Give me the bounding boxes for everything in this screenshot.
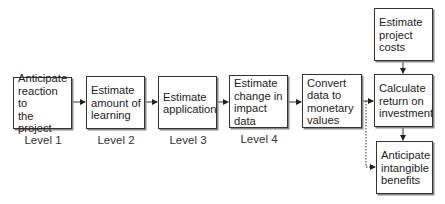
box-anticipate-intangible: Anticipate intangible benefits bbox=[376, 141, 433, 194]
box-label: Estimate amount of learning bbox=[91, 84, 141, 122]
box-label: Anticipate reaction to the project bbox=[18, 72, 68, 135]
box-label: Convert data to monetary values bbox=[307, 77, 354, 127]
box-label: Estimate project costs bbox=[379, 16, 423, 54]
box-anticipate-reaction: Anticipate reaction to the project bbox=[13, 77, 72, 129]
level-4-label: Level 4 bbox=[229, 133, 289, 145]
box-label: Anticipate intangible benefits bbox=[381, 149, 430, 187]
box-estimate-impact: Estimate change in impact data bbox=[229, 75, 288, 128]
box-estimate-costs: Estimate project costs bbox=[374, 8, 433, 61]
box-estimate-application: Estimate application bbox=[158, 76, 217, 129]
box-label: Estimate change in impact data bbox=[234, 77, 284, 127]
level-3-label: Level 3 bbox=[158, 134, 218, 146]
box-calculate-roi: Calculate return on investment bbox=[374, 74, 433, 127]
box-convert-monetary: Convert data to monetary values bbox=[302, 74, 362, 128]
level-2-label: Level 2 bbox=[86, 134, 146, 146]
box-label: Calculate return on investment bbox=[379, 82, 433, 120]
box-estimate-learning: Estimate amount of learning bbox=[86, 76, 145, 129]
box-label: Estimate application bbox=[163, 91, 217, 116]
level-1-label: Level 1 bbox=[13, 134, 73, 146]
